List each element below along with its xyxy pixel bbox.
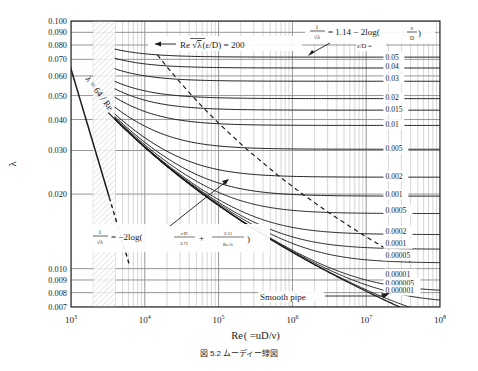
eps-label-0.01: 0.01 [386,120,399,129]
y-tick-label-3: 0.070 [48,55,67,64]
transition-annotation-group: Re √λ(ε/D) = 200 [148,36,302,51]
x-axis-title: Re( =uD/ν) [231,330,280,342]
y-tick-label-4: 0.060 [48,72,67,81]
colebrook-rhs-operator: = −2log( [111,232,142,242]
eps-label-0.03: 0.03 [386,74,399,83]
colebrook-lhs-numerator: 1 [99,229,102,235]
y-tick-label-6: 0.040 [48,116,67,125]
y-tick-label-9: 0.010 [48,265,67,274]
colebrook-lhs-denominator: √λ [97,239,103,245]
eps-label-0.00001: 0.00001 [386,270,411,279]
y-tick-label-0: 0.100 [48,17,67,26]
eps-label-0.0002: 0.0002 [386,227,407,236]
y-tick-label-11: 0.008 [48,289,67,298]
y-tick-label-8: 0.020 [48,190,67,199]
moody-chart-svg: 0.1000.0900.0800.0700.0600.0500.0400.030… [0,0,478,371]
vonkarman-lhs-denominator: √λ [314,34,320,40]
eps-label-0.005: 0.005 [386,144,403,153]
eps-label-0.015: 0.015 [386,105,403,114]
eps-label-0.02: 0.02 [386,93,399,102]
eps-label-0.001: 0.001 [386,190,403,199]
y-tick-label-12: 0.007 [48,303,67,312]
y-tick-label-5: 0.050 [48,92,67,101]
critical-zone-hatch [93,21,115,307]
smooth-pipe-label: Smooth pipe [260,292,306,302]
eps-label-0.0005: 0.0005 [386,206,407,215]
eps-label-0.05: 0.05 [386,53,399,62]
eps-label-0.0001: 0.0001 [386,239,407,248]
colebrook-term2-denominator: Re√λ [223,242,234,247]
vonkarman-close-paren: ) [418,28,421,38]
vonkarman-eps-denominator: D [410,35,414,41]
y-tick-label-1: 0.090 [48,28,67,37]
moody-diagram-figure: 0.1000.0900.0800.0700.0600.0500.0400.030… [0,0,478,371]
colebrook-plus-sign: + [199,233,204,243]
colebrook-term1-denominator: 3.71 [180,241,189,246]
colebrook-term2-numerator: 2.51 [224,231,233,236]
transition-annotation-text: Re √λ(ε/D) = 200 [180,40,245,50]
y-tick-label-7: 0.030 [48,146,67,155]
vonkarman-rhs: = 1.14 − 2log( [328,27,380,37]
y-tick-label-10: 0.009 [48,276,67,285]
colebrook-close-paren: ) [247,234,250,244]
y-tick-label-2: 0.080 [48,41,67,50]
colebrook-term1-numerator: ε/D [181,231,188,236]
figure-caption: 図 5.2 ムーディー線図 [200,348,279,358]
vonkarman-lhs-numerator: 1 [316,24,319,30]
eps-label-0.002: 0.002 [386,172,403,181]
eps-label-0.04: 0.04 [386,62,399,71]
eps-label-0.00005: 0.00005 [386,251,411,260]
eps-label-0.000001: 0.000001 [386,286,415,295]
